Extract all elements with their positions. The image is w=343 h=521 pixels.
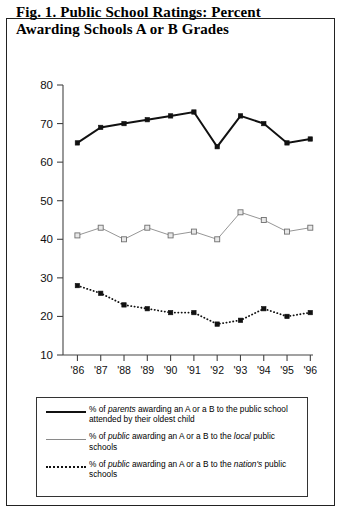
- legend-text-nation-mid: awarding an A or a B to the: [130, 459, 234, 469]
- legend-item-parents: % of parents awarding an A or a B to the…: [43, 404, 301, 424]
- legend-text-local-pre: % of: [89, 431, 108, 441]
- legend-text-parents-em: parents: [108, 404, 136, 414]
- legend-text-nation-em2: nation's: [234, 459, 262, 469]
- legend-text-nation-pre: % of: [89, 459, 108, 469]
- solid-line-key: [43, 407, 89, 418]
- legend-text-nation-em1: public: [108, 459, 130, 469]
- legend-text-local-mid: awarding an A or a B to the: [130, 431, 234, 441]
- legend-item-local: % of public awarding an A or a B to the …: [43, 431, 301, 451]
- legend-text-parents-pre: % of: [89, 404, 108, 414]
- legend-text-local-em2: local: [234, 431, 251, 441]
- chart-legend: % of parents awarding an A or a B to the…: [36, 397, 308, 497]
- legend-item-nation: % of public awarding an A or a B to the …: [43, 459, 301, 479]
- figure-title: Fig. 1. Public School Ratings: Percent A…: [16, 4, 316, 38]
- dotted-line-key: [43, 462, 89, 473]
- light-line-key: [43, 434, 89, 445]
- legend-text-local-em1: public: [108, 431, 130, 441]
